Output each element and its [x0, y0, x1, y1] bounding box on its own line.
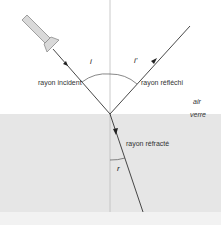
reflected-ray	[110, 26, 190, 114]
angle-r-label: r	[117, 165, 120, 173]
medium-air-label: air	[193, 98, 201, 105]
angle-i-prime-arc	[110, 74, 137, 84]
angle-i-arc	[82, 74, 110, 82]
refraction-diagram: i i' r rayon incident rayon réfléchi ray…	[0, 0, 221, 225]
medium-glass-label: verre	[190, 111, 206, 118]
angle-i-label: i	[90, 58, 92, 66]
glass-medium	[0, 114, 221, 212]
angle-i-prime-label: i'	[134, 57, 137, 65]
light-source-icon	[22, 15, 59, 52]
bottom-strip	[0, 212, 221, 225]
refracted-ray-label: rayon réfracté	[126, 140, 169, 147]
reflected-ray-label: rayon réfléchi	[141, 79, 183, 86]
incident-ray-label: rayon incident	[38, 79, 82, 86]
diagram-graphic	[0, 0, 221, 225]
